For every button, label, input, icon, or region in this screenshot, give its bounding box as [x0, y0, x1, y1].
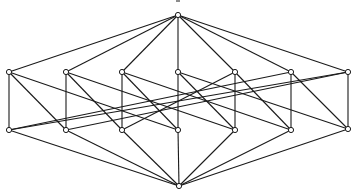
edge-T-U7	[178, 15, 348, 72]
node-U4	[175, 69, 180, 74]
node-U1	[6, 69, 11, 74]
edge-U6-L1	[9, 72, 291, 130]
edge-T-U1	[9, 15, 178, 72]
edge-T-U2	[66, 15, 178, 72]
edge-B-L3	[122, 130, 179, 186]
edge-B-L2	[66, 130, 179, 186]
edge-U2-L3	[66, 72, 122, 130]
edge-B-L6	[179, 130, 291, 186]
edge-B-L5	[179, 130, 235, 186]
node-U6	[288, 69, 293, 74]
node-L4	[175, 127, 180, 132]
lattice-diagram	[0, 0, 355, 192]
edge-T-U6	[178, 15, 291, 72]
node-L3	[119, 127, 124, 132]
node-L2	[63, 127, 68, 132]
node-L1	[6, 127, 11, 132]
edge-group	[9, 15, 348, 186]
node-B	[176, 183, 181, 188]
edge-T-U5	[178, 15, 235, 72]
node-U3	[119, 69, 124, 74]
edge-T-U3	[122, 15, 178, 72]
node-U2	[63, 69, 68, 74]
node-U5	[232, 69, 237, 74]
node-L6	[288, 127, 293, 132]
edge-U5-L6	[235, 72, 291, 130]
node-T	[175, 12, 180, 17]
node-U7	[345, 69, 350, 74]
node-L7	[345, 126, 350, 131]
edge-B-L1	[9, 130, 179, 186]
node-L5	[232, 127, 237, 132]
edge-U7-L2	[66, 72, 348, 130]
edge-B-L4	[178, 130, 179, 186]
edge-B-L7	[179, 129, 348, 186]
